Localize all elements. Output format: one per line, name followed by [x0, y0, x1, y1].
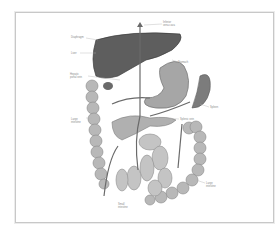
hepatic-portal-diagram: [0, 0, 278, 230]
small-intestine-illustration: [116, 134, 172, 196]
label-inferior-vena-cava: Inferior vena cava: [163, 21, 175, 27]
label-small-intestine: Small intestine: [118, 203, 128, 209]
label-spleen: Spleen: [210, 106, 218, 109]
label-large-intestine-right: Large intestine: [206, 182, 216, 188]
label-liver: Liver: [71, 52, 77, 55]
label-stomach: Stomach: [178, 61, 188, 64]
ivc-arrow-icon: [137, 22, 143, 27]
label-hepatic-portal-vein: Hepatic portal vein: [70, 73, 82, 79]
label-diaphragm: Diaphragm: [71, 36, 84, 39]
spleen-illustration: [192, 75, 210, 108]
gallbladder-illustration: [103, 82, 113, 90]
label-splenic-vein: Splenic vein: [180, 118, 194, 121]
label-large-intestine-left: Large intestine: [71, 118, 81, 124]
stomach-illustration: [144, 61, 188, 108]
